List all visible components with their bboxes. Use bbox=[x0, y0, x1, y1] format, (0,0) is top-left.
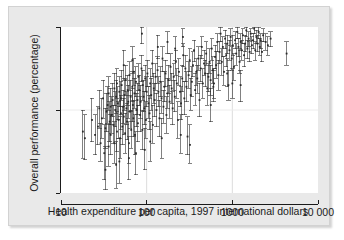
point-marker bbox=[146, 91, 148, 93]
point-marker bbox=[206, 88, 208, 90]
point-marker bbox=[170, 66, 172, 68]
point-marker bbox=[175, 61, 177, 63]
point-marker bbox=[174, 96, 176, 98]
point-marker bbox=[109, 121, 111, 123]
point-marker bbox=[148, 102, 150, 104]
point-marker bbox=[190, 94, 192, 96]
point-marker bbox=[251, 44, 253, 46]
data-point-errorbar bbox=[268, 32, 272, 47]
point-marker bbox=[176, 83, 178, 85]
point-marker bbox=[241, 49, 243, 51]
point-marker bbox=[247, 48, 249, 50]
point-marker bbox=[228, 84, 230, 86]
point-marker bbox=[141, 68, 143, 70]
point-marker bbox=[177, 119, 179, 121]
data-point-errorbar bbox=[102, 125, 106, 180]
data-point-errorbar bbox=[190, 67, 194, 97]
point-marker bbox=[238, 46, 240, 48]
point-marker bbox=[211, 48, 213, 50]
data-point-errorbar bbox=[173, 80, 177, 112]
point-marker bbox=[133, 71, 135, 73]
data-point-errorbar bbox=[104, 93, 108, 131]
point-marker bbox=[107, 104, 109, 106]
data-point-errorbar bbox=[160, 47, 164, 72]
point-marker bbox=[221, 61, 223, 63]
point-marker bbox=[178, 71, 180, 73]
data-point-errorbar bbox=[127, 137, 131, 180]
point-marker bbox=[161, 137, 163, 139]
point-marker bbox=[173, 76, 175, 78]
point-marker bbox=[138, 89, 140, 91]
point-marker bbox=[184, 68, 186, 70]
data-point-errorbar bbox=[253, 42, 257, 60]
data-point-errorbar bbox=[93, 115, 97, 155]
point-marker bbox=[145, 119, 147, 121]
point-marker bbox=[169, 101, 171, 103]
point-marker bbox=[196, 78, 198, 80]
point-marker bbox=[224, 38, 226, 40]
point-marker bbox=[202, 83, 204, 85]
point-marker bbox=[141, 33, 143, 35]
data-point-errorbar bbox=[191, 52, 195, 77]
data-point-errorbar bbox=[165, 32, 169, 54]
point-marker bbox=[183, 97, 185, 99]
data-point-errorbar bbox=[90, 98, 94, 141]
data-point-errorbar bbox=[179, 115, 183, 153]
point-marker bbox=[157, 46, 159, 48]
data-point-errorbar bbox=[83, 115, 87, 160]
point-marker bbox=[144, 78, 146, 80]
point-marker bbox=[223, 71, 225, 73]
point-marker bbox=[167, 41, 169, 43]
point-marker bbox=[249, 51, 251, 53]
point-marker bbox=[116, 83, 118, 85]
point-marker bbox=[84, 137, 86, 139]
plot-panel bbox=[61, 27, 318, 193]
point-marker bbox=[187, 136, 189, 138]
data-point-errorbar bbox=[181, 29, 185, 47]
point-marker bbox=[130, 96, 132, 98]
point-marker bbox=[97, 126, 99, 128]
point-marker bbox=[162, 58, 164, 60]
point-marker bbox=[113, 142, 115, 144]
data-point-errorbar bbox=[215, 34, 219, 52]
point-marker bbox=[143, 107, 145, 109]
point-marker bbox=[149, 83, 151, 85]
point-marker bbox=[255, 36, 257, 38]
point-marker bbox=[248, 38, 250, 40]
data-point-errorbar bbox=[175, 69, 179, 99]
point-marker bbox=[188, 74, 190, 76]
point-marker bbox=[232, 44, 234, 46]
point-marker bbox=[103, 152, 105, 154]
point-marker bbox=[157, 91, 159, 93]
point-marker bbox=[165, 73, 167, 75]
data-point-errorbar bbox=[174, 50, 178, 75]
point-marker bbox=[110, 106, 112, 108]
point-marker bbox=[254, 49, 256, 51]
data-point-errorbar bbox=[163, 60, 167, 87]
point-marker bbox=[210, 79, 212, 81]
point-marker bbox=[199, 99, 201, 101]
point-marker bbox=[115, 164, 117, 166]
point-marker bbox=[100, 142, 102, 144]
data-point-errorbar bbox=[148, 122, 152, 162]
point-marker bbox=[286, 53, 288, 55]
data-point-errorbar bbox=[172, 64, 176, 91]
point-marker bbox=[267, 44, 269, 46]
data-point-errorbar bbox=[177, 59, 181, 86]
point-marker bbox=[245, 29, 247, 31]
data-point-errorbar bbox=[81, 110, 85, 158]
point-marker bbox=[161, 97, 163, 99]
point-marker bbox=[135, 152, 137, 154]
point-marker bbox=[149, 141, 151, 143]
point-marker bbox=[261, 51, 263, 53]
point-marker bbox=[91, 119, 93, 121]
data-point-errorbar bbox=[206, 64, 210, 92]
data-point-errorbar bbox=[164, 97, 168, 134]
point-marker bbox=[157, 69, 159, 71]
point-marker bbox=[234, 39, 236, 41]
point-marker bbox=[127, 101, 129, 103]
data-point-errorbar bbox=[185, 117, 189, 155]
point-marker bbox=[147, 73, 149, 75]
data-point-errorbar bbox=[224, 44, 228, 67]
point-marker bbox=[253, 28, 255, 30]
